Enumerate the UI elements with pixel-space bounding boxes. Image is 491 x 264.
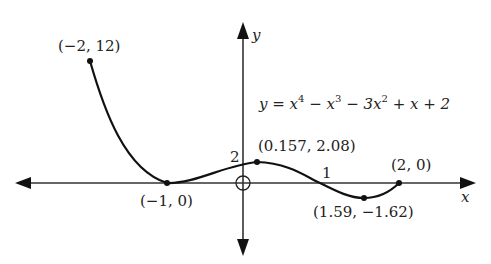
label-point-m2-12: (−2, 12) <box>58 37 120 55</box>
x-axis-label: x <box>461 188 470 206</box>
equation-tail: + x + 2 <box>388 95 450 113</box>
label-point-m1-0: (−1, 0) <box>140 192 193 210</box>
label-y-intercept: 2 <box>230 148 240 166</box>
y-axis-down-arrow-icon <box>237 239 249 256</box>
point-m2-12 <box>87 58 93 64</box>
point-local-min <box>361 195 367 201</box>
equation-mid2: − 3x <box>341 95 382 113</box>
y-axis-up-arrow-icon <box>237 22 249 39</box>
point-local-max <box>254 159 260 165</box>
label-point-2-0: (2, 0) <box>391 156 431 174</box>
equation-mid1: − x <box>304 95 335 113</box>
label-x-intercept-1: 1 <box>322 164 332 182</box>
function-graph: (−2, 12) (−1, 0) (0.157, 2.08) (1.59, −1… <box>0 0 491 264</box>
y-axis <box>237 22 249 256</box>
point-m1-0 <box>164 180 170 186</box>
label-point-local-max: (0.157, 2.08) <box>258 137 356 155</box>
function-curve <box>90 61 399 198</box>
label-point-local-min: (1.59, −1.62) <box>313 203 414 221</box>
point-2-0 <box>396 180 402 186</box>
equation-label: y = x4 − x3 − 3x2 + x + 2 <box>258 93 450 113</box>
x-axis-left-arrow-icon <box>15 177 31 189</box>
equation-lhs: y = x <box>258 95 299 113</box>
x-axis <box>15 177 476 189</box>
y-axis-label: y <box>251 26 261 44</box>
